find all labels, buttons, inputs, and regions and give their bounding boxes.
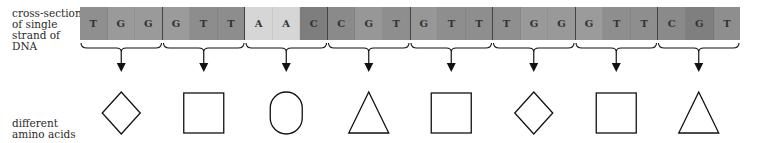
arrow-down-icon — [694, 63, 703, 72]
diamond-amino-acid-icon — [515, 92, 553, 134]
codon-brace-icon — [81, 43, 162, 52]
square-amino-acid-icon — [596, 93, 636, 133]
codon-brace-icon — [246, 43, 327, 52]
oval-amino-acid-icon — [270, 92, 302, 134]
codon-brace-icon — [494, 43, 575, 52]
diamond-amino-acid-icon — [102, 92, 140, 134]
codon-brace-icon — [164, 43, 245, 52]
codon-brace-icon — [411, 43, 492, 52]
codon-brace-icon — [329, 43, 410, 52]
arrow-down-icon — [364, 63, 373, 72]
square-amino-acid-icon — [431, 93, 471, 133]
codon-brace-icon — [576, 43, 657, 52]
square-amino-acid-icon — [184, 93, 224, 133]
arrow-down-icon — [117, 63, 126, 72]
codon-diagram — [0, 0, 766, 143]
arrow-down-icon — [529, 63, 538, 72]
triangle-amino-acid-icon — [349, 92, 389, 133]
codon-brace-icon — [659, 43, 740, 52]
arrow-down-icon — [282, 63, 291, 72]
arrow-down-icon — [612, 63, 621, 72]
arrow-down-icon — [199, 63, 208, 72]
arrow-down-icon — [447, 63, 456, 72]
triangle-amino-acid-icon — [679, 92, 719, 133]
